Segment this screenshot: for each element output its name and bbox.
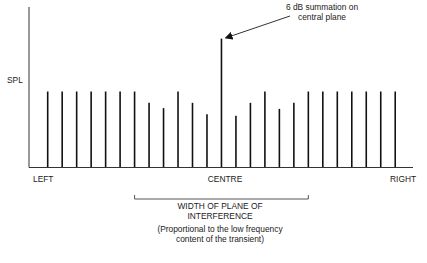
annotation-text: 6 dB summation on central plane xyxy=(286,2,358,22)
diagram-stage: SPL LEFT CENTRE RIGHT 6 dB summation on … xyxy=(0,0,427,263)
bars-group xyxy=(48,39,396,167)
annotation-line-2: central plane xyxy=(286,12,358,22)
bracket-note: (Proportional to the low frequency conte… xyxy=(157,224,282,244)
annotation-arrow xyxy=(226,16,290,38)
bracket-label-line-2: INTERFERENCE xyxy=(177,211,262,221)
x-tick-label-right: RIGHT xyxy=(390,174,416,184)
annotation-line-1: 6 dB summation on xyxy=(286,2,358,12)
x-tick-label-left: LEFT xyxy=(33,174,53,184)
y-axis-label: SPL xyxy=(7,75,23,85)
bracket-label: WIDTH OF PLANE OF INTERFERENCE xyxy=(177,201,262,221)
width-bracket xyxy=(135,195,309,199)
x-tick-label-centre: CENTRE xyxy=(208,174,242,184)
bracket-note-line-1: (Proportional to the low frequency xyxy=(157,224,282,234)
bracket-note-line-2: content of the transient) xyxy=(157,234,282,244)
bracket-label-line-1: WIDTH OF PLANE OF xyxy=(177,201,262,211)
